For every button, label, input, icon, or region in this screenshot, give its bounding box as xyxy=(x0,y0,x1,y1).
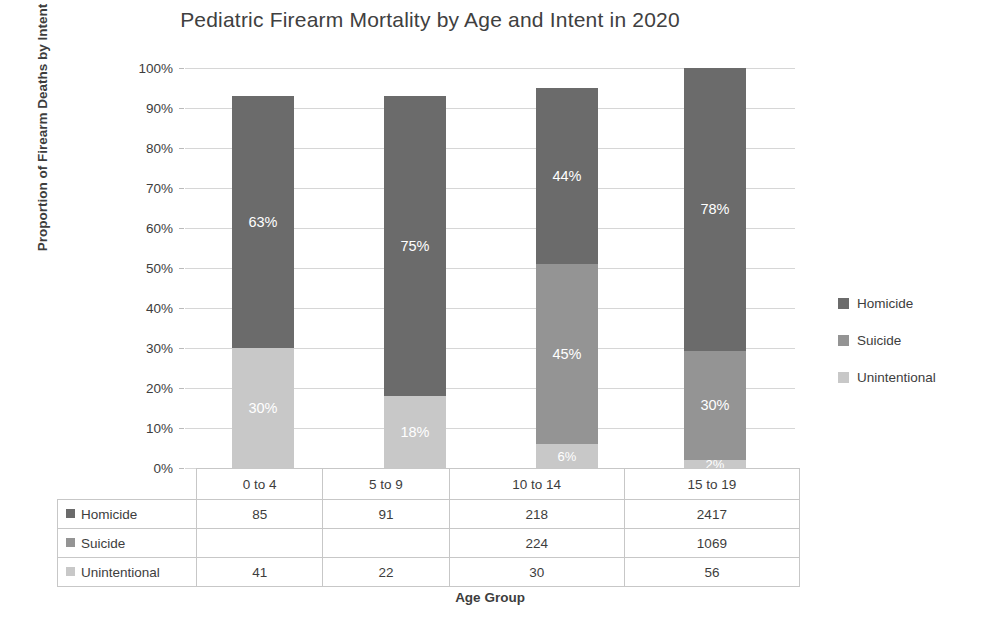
table-row-label: Suicide xyxy=(58,529,197,558)
table-corner-cell xyxy=(58,469,197,500)
legend-item-homicide[interactable]: Homicide xyxy=(838,296,936,311)
table-row: Suicide2241069 xyxy=(58,529,800,558)
bar-segment-label: 78% xyxy=(700,202,729,217)
table-cell: 2417 xyxy=(624,500,799,529)
bar-segment-unintentional[interactable]: 30% xyxy=(232,348,294,468)
table-cell: 1069 xyxy=(624,529,799,558)
y-axis-tick-label: 30% xyxy=(113,341,173,356)
table-swatch-icon xyxy=(66,509,75,518)
table-row-label: Homicide xyxy=(58,500,197,529)
bar-segment-suicide[interactable]: 30% xyxy=(684,351,746,460)
y-axis-tick-label: 60% xyxy=(113,221,173,236)
legend: HomicideSuicideUnintentional xyxy=(838,296,936,407)
legend-item-suicide[interactable]: Suicide xyxy=(838,333,936,348)
table-cell xyxy=(197,529,323,558)
y-axis-title: Proportion of Firearm Deaths by Intent xyxy=(35,0,50,318)
table-row-label: Unintentional xyxy=(58,558,197,587)
bar-segment-homicide[interactable]: 78% xyxy=(684,68,746,351)
table-header-row: 0 to 45 to 910 to 1415 to 19 xyxy=(58,469,800,500)
legend-swatch-icon xyxy=(838,335,849,346)
legend-swatch-icon xyxy=(838,298,849,309)
y-axis-tick-label: 80% xyxy=(113,141,173,156)
table-row-label-text: Unintentional xyxy=(81,565,160,580)
table-cell xyxy=(323,529,449,558)
table-cell: 22 xyxy=(323,558,449,587)
bar-segment-label: 18% xyxy=(400,425,429,440)
y-axis-tick-label: 100% xyxy=(113,61,173,76)
legend-label: Homicide xyxy=(857,296,913,311)
y-axis-tick-mark xyxy=(179,68,184,69)
table-cell: 224 xyxy=(449,529,624,558)
y-axis-tick-label: 20% xyxy=(113,381,173,396)
table-column-header: 0 to 4 xyxy=(197,469,323,500)
table-column-header: 15 to 19 xyxy=(624,469,799,500)
y-axis-tick-mark xyxy=(179,308,184,309)
y-axis-tick-mark xyxy=(179,228,184,229)
y-axis-tick-label: 40% xyxy=(113,301,173,316)
bar-segment-unintentional[interactable]: 2% xyxy=(684,460,746,468)
plot-area: 30%63%18%75%6%45%44%2%30%78% xyxy=(185,68,795,468)
table-column-header: 10 to 14 xyxy=(449,469,624,500)
bar-5-to-9[interactable]: 18%75% xyxy=(384,68,446,468)
y-axis-tick-mark xyxy=(179,108,184,109)
legend-item-unintentional[interactable]: Unintentional xyxy=(838,370,936,385)
y-axis-tick-mark xyxy=(179,188,184,189)
bar-segment-homicide[interactable]: 63% xyxy=(232,96,294,348)
y-axis-tick-mark xyxy=(179,148,184,149)
legend-label: Unintentional xyxy=(857,370,936,385)
chart-container: Pediatric Firearm Mortality by Age and I… xyxy=(0,0,988,620)
legend-swatch-icon xyxy=(838,372,849,383)
y-axis-tick-mark xyxy=(179,268,184,269)
bar-segment-homicide[interactable]: 75% xyxy=(384,96,446,396)
table-row-label-text: Suicide xyxy=(81,536,125,551)
table-swatch-icon xyxy=(66,567,75,576)
x-axis-title: Age Group xyxy=(185,590,795,605)
table-column-header: 5 to 9 xyxy=(323,469,449,500)
bar-10-to-14[interactable]: 6%45%44% xyxy=(536,68,598,468)
table-cell: 85 xyxy=(197,500,323,529)
bar-segment-label: 30% xyxy=(700,398,729,413)
table-cell: 41 xyxy=(197,558,323,587)
bar-segment-unintentional[interactable]: 6% xyxy=(536,444,598,468)
legend-label: Suicide xyxy=(857,333,901,348)
table-row: Unintentional41223056 xyxy=(58,558,800,587)
table-cell: 218 xyxy=(449,500,624,529)
y-axis-tick-label: 90% xyxy=(113,101,173,116)
bar-segment-unintentional[interactable]: 18% xyxy=(384,396,446,468)
table-swatch-icon xyxy=(66,538,75,547)
y-axis-tick-label: 70% xyxy=(113,181,173,196)
bar-segment-label: 75% xyxy=(400,239,429,254)
table-row: Homicide85912182417 xyxy=(58,500,800,529)
y-axis-tick-mark xyxy=(179,348,184,349)
bar-segment-label: 63% xyxy=(248,215,277,230)
y-axis-tick-label: 50% xyxy=(113,261,173,276)
y-axis-tick-mark xyxy=(179,428,184,429)
table-row-label-text: Homicide xyxy=(81,507,137,522)
y-axis-tick-label: 10% xyxy=(113,421,173,436)
table-cell: 91 xyxy=(323,500,449,529)
data-table: 0 to 45 to 910 to 1415 to 19Homicide8591… xyxy=(57,468,800,587)
bar-15-to-19[interactable]: 2%30%78% xyxy=(684,68,746,468)
table-cell: 56 xyxy=(624,558,799,587)
y-axis-tick-mark xyxy=(179,388,184,389)
bar-segment-label: 6% xyxy=(558,450,577,463)
table-cell: 30 xyxy=(449,558,624,587)
bar-segment-label: 44% xyxy=(552,169,581,184)
bar-segment-label: 45% xyxy=(552,347,581,362)
bar-segment-label: 30% xyxy=(248,401,277,416)
bar-segment-homicide[interactable]: 44% xyxy=(536,88,598,264)
bar-0-to-4[interactable]: 30%63% xyxy=(232,68,294,468)
bar-segment-suicide[interactable]: 45% xyxy=(536,264,598,444)
